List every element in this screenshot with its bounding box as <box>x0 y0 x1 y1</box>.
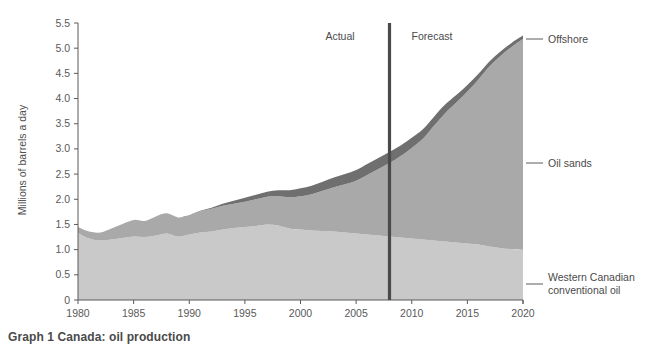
y-tick-label: 0 <box>64 294 70 306</box>
x-tick-label: 2015 <box>456 307 480 319</box>
x-tick-label: 2000 <box>289 307 313 319</box>
y-tick-label: 3.0 <box>55 142 70 154</box>
y-tick-label: 1.0 <box>55 243 70 255</box>
area-series-oil-sands <box>78 39 523 250</box>
series-label-oil-sands: Oil sands <box>548 157 592 169</box>
y-tick-label: 2.5 <box>55 168 70 180</box>
x-tick-label: 1980 <box>66 307 90 319</box>
y-tick-label: 1.5 <box>55 218 70 230</box>
y-tick-label: 5.0 <box>55 42 70 54</box>
x-tick-label: 2005 <box>344 307 368 319</box>
stacked-area-series <box>78 36 523 300</box>
chart-figure: 00.51.01.52.02.53.03.54.04.55.05.5198019… <box>0 0 655 357</box>
y-tick-label: 2.0 <box>55 193 70 205</box>
series-label-offshore: Offshore <box>548 33 588 45</box>
x-tick-label: 1985 <box>122 307 146 319</box>
oil-production-area-chart: 00.51.01.52.02.53.03.54.04.55.05.5198019… <box>0 0 655 357</box>
series-label-conventional-line1: Western Canadian <box>548 271 635 283</box>
y-tick-label: 0.5 <box>55 268 70 280</box>
annotation-actual: Actual <box>325 30 354 42</box>
y-tick-label: 4.0 <box>55 92 70 104</box>
x-tick-label: 2010 <box>400 307 424 319</box>
y-tick-label: 3.5 <box>55 117 70 129</box>
x-tick-label: 1995 <box>233 307 257 319</box>
figure-caption: Graph 1 Canada: oil production <box>8 330 190 344</box>
y-tick-label: 5.5 <box>55 17 70 29</box>
x-tick-label: 1990 <box>178 307 202 319</box>
y-axis-title: Millions of barrels a day <box>16 104 28 215</box>
series-label-conventional-line2: conventional oil <box>548 284 620 296</box>
annotation-forecast: Forecast <box>412 30 453 42</box>
y-tick-label: 4.5 <box>55 67 70 79</box>
x-tick-label: 2020 <box>511 307 535 319</box>
